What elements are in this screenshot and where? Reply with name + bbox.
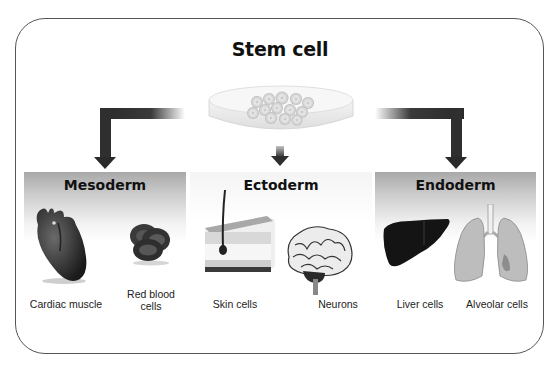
- diagram-title: Stem cell: [0, 38, 560, 60]
- alveolar-cells-label: Alveolar cells: [460, 298, 534, 310]
- red-blood-cells-label: Red blood cells: [118, 288, 184, 312]
- skin-cells-label: Skin cells: [204, 298, 266, 310]
- red-blood-cell-icon: [126, 220, 176, 266]
- liver-cells-label: Liver cells: [392, 298, 448, 310]
- mesoderm-label: Mesoderm: [24, 177, 186, 193]
- skin-cross-section-icon: [203, 188, 275, 276]
- neurons-label: Neurons: [310, 298, 366, 310]
- arrow-to-mesoderm: [100, 108, 185, 119]
- heart-icon: [30, 205, 94, 285]
- liver-icon: [380, 215, 452, 271]
- arrow-to-endoderm-stem: [451, 108, 462, 158]
- arrow-head-ectoderm-icon: [271, 156, 289, 166]
- arrow-head-endoderm-icon: [445, 157, 467, 169]
- arrow-head-mesoderm-icon: [94, 157, 116, 169]
- petri-dish-icon: [205, 80, 357, 136]
- endoderm-label: Endoderm: [375, 177, 536, 193]
- red-blood-cells-label-line1: Red blood: [118, 288, 184, 300]
- arrow-to-mesoderm-stem: [100, 108, 111, 158]
- red-blood-cells-label-line2: cells: [118, 300, 184, 312]
- brain-icon: [283, 223, 355, 297]
- lungs-icon: [448, 204, 534, 286]
- cardiac-muscle-label: Cardiac muscle: [26, 298, 106, 310]
